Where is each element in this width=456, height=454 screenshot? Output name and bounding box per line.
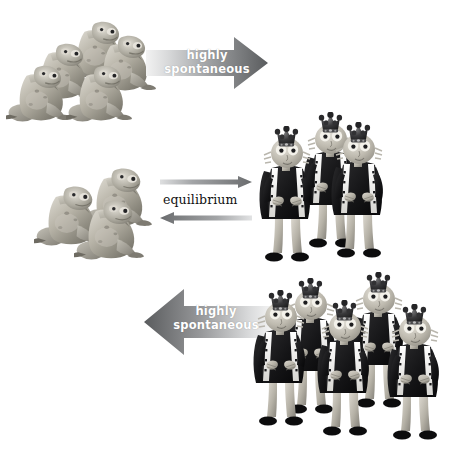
arrow-bottom-label-line1: highly xyxy=(170,305,262,319)
arrow-right-icon xyxy=(160,176,252,188)
arrow-top-label-line1: highly xyxy=(162,49,252,63)
arrow-bottom-label-line2: spontaneous xyxy=(170,319,262,333)
arrow-equilibrium-reverse xyxy=(160,212,252,224)
diagram-canvas: highly spontaneous equilibrium xyxy=(0,0,456,454)
prince-figure xyxy=(252,290,310,432)
prince-figure xyxy=(386,304,444,446)
arrow-top-label: highly spontaneous xyxy=(162,49,252,76)
equilibrium-label: equilibrium xyxy=(163,194,237,207)
group-mid-right-princes xyxy=(258,112,388,270)
prince-figure xyxy=(330,122,388,264)
arrow-left-icon xyxy=(160,212,252,224)
arrow-top-label-line2: spontaneous xyxy=(162,63,252,77)
arrow-equilibrium-forward xyxy=(160,176,252,188)
frog-figure xyxy=(74,182,146,266)
group-bottom-right-princes xyxy=(252,272,452,452)
frog-figure xyxy=(66,48,134,128)
group-top-left-frogs xyxy=(8,4,158,132)
prince-figure xyxy=(258,126,316,268)
group-mid-left-frogs xyxy=(30,150,165,265)
frog-figure xyxy=(6,48,74,128)
prince-figure xyxy=(316,300,374,442)
arrow-bottom-label: highly spontaneous xyxy=(170,305,262,332)
